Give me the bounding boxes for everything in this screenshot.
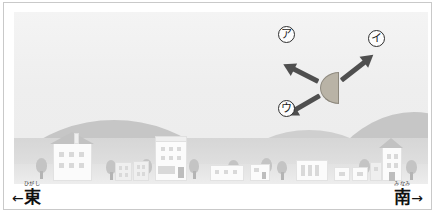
building (115, 162, 132, 181)
building (53, 143, 92, 181)
east-ruby: ひがし (24, 180, 41, 186)
tree (277, 161, 287, 179)
roof (50, 132, 94, 144)
chimney (74, 133, 79, 144)
east-kanji: 東 (24, 187, 41, 207)
tree (36, 158, 47, 178)
arrow-to-a (282, 64, 318, 82)
landscape-scene: ア イ ウ (14, 12, 428, 184)
figure-root: ア イ ウ ← ひがし 東 みなみ 南 → (0, 0, 435, 213)
building (133, 161, 149, 181)
tree (189, 159, 199, 178)
south-kanji: 南 (394, 187, 411, 207)
roof-flat (155, 136, 187, 142)
south-arrow-icon: → (411, 190, 423, 207)
compass-south: みなみ 南 → (394, 189, 423, 207)
label-i[interactable]: イ (368, 30, 385, 47)
east-arrow-icon: ← (12, 190, 24, 207)
building (370, 162, 382, 181)
building (334, 167, 350, 181)
building (210, 165, 244, 181)
label-u[interactable]: ウ (278, 100, 295, 117)
half-moon (320, 72, 339, 104)
building-tall (155, 139, 187, 181)
south-ruby: みなみ (394, 180, 411, 186)
roof (379, 138, 403, 148)
figure-frame: ア イ ウ ← ひがし 東 みなみ 南 → (3, 2, 432, 210)
compass-east: ← ひがし 東 (12, 189, 41, 207)
building (382, 147, 402, 181)
building (296, 160, 328, 181)
tree (406, 160, 417, 179)
arrow-to-i (341, 54, 374, 80)
building (352, 167, 368, 181)
building (250, 164, 270, 181)
label-a[interactable]: ア (278, 26, 295, 43)
